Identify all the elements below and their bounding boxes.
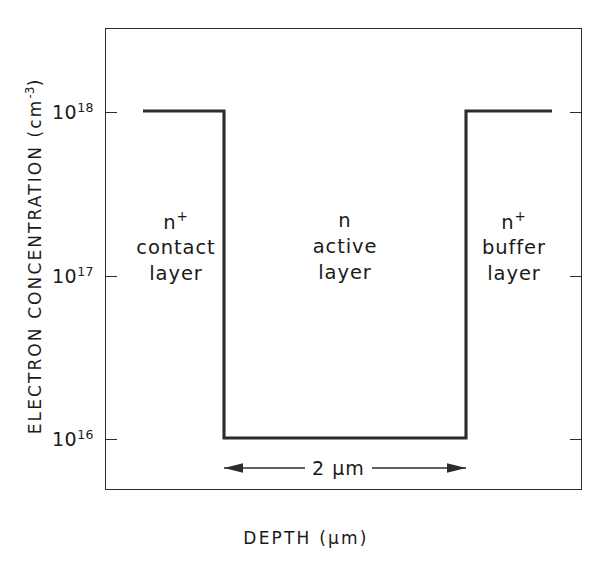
y-tick-mark-1e17-right xyxy=(570,276,581,277)
y-axis-title: ELECTRON CONCENTRATION (cm-3) xyxy=(23,56,45,456)
region-label-line-3: layer xyxy=(128,261,224,287)
region-dopant-superscript: + xyxy=(515,208,527,224)
y-tick-mark-1e17-left xyxy=(106,276,117,277)
y-tick-mark-1e18-left xyxy=(106,112,117,113)
region-label-contact-layer: n+ contact layer xyxy=(128,208,224,287)
y-tick-label-1e17: 1017 xyxy=(52,264,94,287)
y-tick-exponent: 17 xyxy=(77,264,94,279)
y-axis-title-close: ) xyxy=(25,77,45,86)
region-label-line-1: n xyxy=(297,208,393,234)
x-axis-title: DEPTH (μm) xyxy=(0,528,612,548)
region-label-line-1: n+ xyxy=(466,208,562,235)
region-label-line-2: buffer xyxy=(466,235,562,261)
dimension-label-2um: 2 μm xyxy=(305,457,372,479)
y-tick-base: 10 xyxy=(52,101,77,123)
y-axis-title-exponent: -3 xyxy=(23,86,37,98)
y-tick-mark-1e16-right xyxy=(570,439,581,440)
y-tick-label-1e18: 1018 xyxy=(52,100,94,123)
y-tick-base: 10 xyxy=(52,265,77,287)
y-tick-mark-1e18-right xyxy=(570,112,581,113)
region-label-line-3: layer xyxy=(297,260,393,286)
y-tick-exponent: 16 xyxy=(77,427,94,442)
region-label-line-3: layer xyxy=(466,261,562,287)
region-label-line-1: n+ xyxy=(128,208,224,235)
region-dopant-type: n xyxy=(501,211,514,234)
region-label-buffer-layer: n+ buffer layer xyxy=(466,208,562,287)
y-tick-exponent: 18 xyxy=(77,100,94,115)
y-tick-mark-1e16-left xyxy=(106,439,117,440)
region-label-active-layer: n active layer xyxy=(297,208,393,286)
figure-container: ELECTRON CONCENTRATION (cm-3) 1018 1017 … xyxy=(0,0,612,567)
y-tick-base: 10 xyxy=(52,428,77,450)
y-tick-label-1e16: 1016 xyxy=(52,427,94,450)
region-label-line-2: contact xyxy=(128,235,224,261)
region-dopant-superscript: + xyxy=(177,208,189,224)
region-label-line-2: active xyxy=(297,234,393,260)
y-axis-title-main: ELECTRON CONCENTRATION (cm xyxy=(25,99,45,435)
region-dopant-type: n xyxy=(163,211,176,234)
